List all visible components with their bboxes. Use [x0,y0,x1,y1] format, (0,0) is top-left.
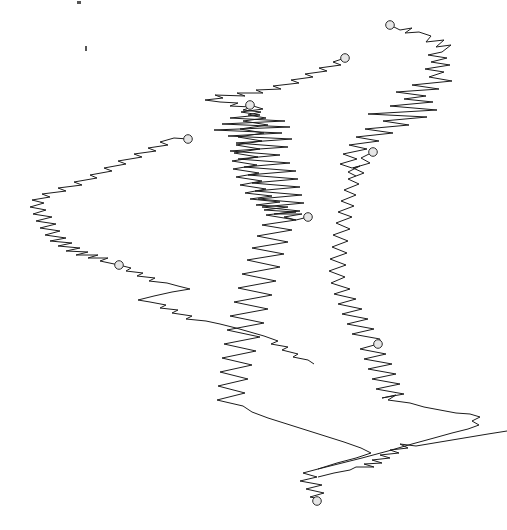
random-walk-figure [0,0,507,530]
random-walk-path-walk-6-bottom-right [318,431,507,477]
random-walk-path-walk-5-left [30,138,314,364]
endpoint-marker-6 [304,213,313,222]
endpoint-marker-2 [341,54,350,63]
random-walk-path-walk-4-upper-center [205,58,345,220]
endpoint-marker-7 [115,261,124,270]
plot-canvas [0,0,507,530]
random-walk-path-walk-2-right-main [300,152,480,501]
random-walk-path-walk-3-central [214,105,371,469]
endpoint-marker-8 [374,340,383,349]
endpoint-marker-3 [246,101,255,110]
endpoint-marker-1 [386,21,395,30]
endpoint-marker-5 [369,148,378,157]
random-walk-path-walk-1-top-right [340,25,452,176]
ink-speck-2 [85,46,87,51]
random-walk-plot [0,0,507,530]
endpoint-marker-4 [184,135,193,144]
endpoint-marker-9 [313,497,322,506]
ink-speck-1 [77,1,81,4]
